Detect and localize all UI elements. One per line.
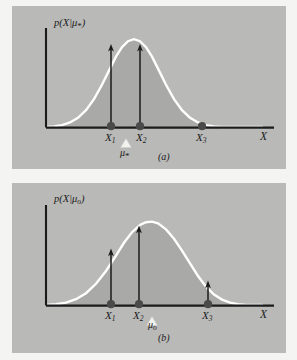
x1-label-b-sub: 1 bbox=[112, 314, 116, 323]
chart-panel-a: p(X|μ*) X1 X2 X3 μ* X (a) bbox=[12, 6, 286, 169]
sample-dot-x3-a bbox=[198, 122, 206, 130]
distribution-area-a bbox=[46, 39, 262, 127]
x2-label-a-text: X bbox=[136, 131, 143, 143]
chart-panel-b: p(X|μo) X1 X2 X3 μo X (b) bbox=[12, 183, 286, 353]
y-axis-label-a: p(X|μ*) bbox=[54, 18, 85, 31]
x3-label-a-sub: 3 bbox=[203, 136, 207, 145]
sample-dot-x1-b bbox=[107, 300, 115, 308]
y-axis-label-b-close: ) bbox=[81, 193, 85, 204]
mu-label-b: μo bbox=[148, 320, 157, 332]
x1-label-a-text: X bbox=[105, 131, 112, 143]
x2-label-b-text: X bbox=[133, 309, 140, 321]
x3-label-b-sub: 3 bbox=[209, 314, 213, 323]
x3-label-a: X3 bbox=[196, 132, 206, 145]
y-axis-label-a-text: p(X|μ bbox=[54, 17, 77, 28]
distribution-area-b bbox=[46, 222, 262, 306]
x-axis-name-b: X bbox=[260, 309, 267, 321]
sample-dot-x2-b bbox=[135, 300, 143, 308]
x1-label-b-text: X bbox=[105, 309, 112, 321]
caption-b: (b) bbox=[158, 333, 170, 343]
x2-label-a: X2 bbox=[136, 132, 146, 145]
sample-dot-x2-a bbox=[136, 122, 144, 130]
caption-a: (a) bbox=[158, 152, 170, 162]
y-axis-label-b: p(X|μo) bbox=[54, 194, 85, 206]
x2-label-b: X2 bbox=[133, 310, 143, 323]
mu-label-a-sub: * bbox=[125, 151, 130, 161]
x-axis-name-a: X bbox=[260, 131, 267, 143]
x1-label-a-sub: 1 bbox=[112, 136, 116, 145]
y-axis-label-a-close: ) bbox=[82, 17, 86, 28]
x3-label-b-text: X bbox=[202, 309, 209, 321]
x1-label-b: X1 bbox=[105, 310, 115, 323]
sample-dot-x1-a bbox=[107, 122, 115, 130]
y-axis-label-b-text: p(X|μ bbox=[54, 193, 77, 204]
sample-dot-x3-b bbox=[204, 300, 212, 308]
x3-label-a-text: X bbox=[196, 131, 203, 143]
figure-container: p(X|μ*) X1 X2 X3 μ* X (a) bbox=[0, 0, 297, 360]
x2-label-a-sub: 2 bbox=[143, 136, 147, 145]
x3-label-b: X3 bbox=[202, 310, 212, 323]
x1-label-a: X1 bbox=[105, 132, 115, 145]
x2-label-b-sub: 2 bbox=[140, 314, 144, 323]
mu-label-a: μ* bbox=[120, 148, 130, 161]
mu-label-b-sub: o bbox=[153, 323, 157, 332]
